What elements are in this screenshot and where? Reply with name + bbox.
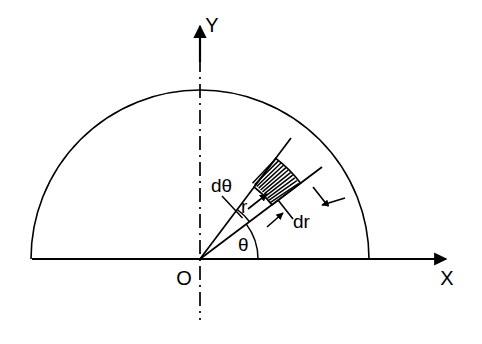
dr-inner-arrow [267,213,283,227]
polar-element-figure: X Y O [0,0,482,344]
x-axis-group: X [32,259,454,289]
y-axis-group: Y [200,14,219,320]
y-axis-label: Y [205,14,218,36]
x-axis-label: X [440,267,453,289]
dr-label: dr [293,211,311,232]
polar-diagram-canvas: X Y O [0,0,482,344]
theta-label: θ [238,234,249,255]
origin-label: O [176,267,192,289]
r-label: r [241,196,248,217]
dtheta-label: dθ [211,175,232,196]
differential-area-element [252,158,300,204]
origin-group: O [176,267,192,289]
r-dimension-arrow [248,194,267,209]
theta-annotation-group: θ [238,224,258,259]
r-annotation-group: r [241,194,267,217]
